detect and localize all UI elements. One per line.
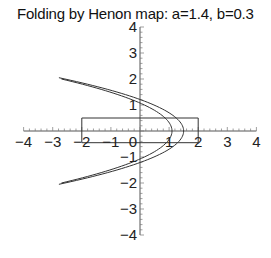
plot-area: −4−3−2−101234−4−3−2−11234 [0,0,271,258]
x-tick-label: 4 [252,133,260,150]
x-tick-label: −4 [15,133,32,150]
y-tick-label: 2 [129,70,137,87]
axes [24,27,257,235]
x-tick-label: 2 [194,133,202,150]
x-tick-label: −2 [73,133,90,150]
y-tick-label: −1 [120,148,137,165]
x-tick-label: 1 [165,133,173,150]
y-tick-label: −3 [120,200,137,217]
x-tick-label: −3 [44,133,61,150]
y-tick-label: 1 [129,96,137,113]
y-tick-label: −2 [120,174,137,191]
y-tick-label: −4 [120,226,137,243]
y-tick-label: 4 [129,18,137,35]
x-tick-label: −1 [102,133,119,150]
x-tick-label: 3 [223,133,231,150]
y-tick-label: 3 [129,44,137,61]
